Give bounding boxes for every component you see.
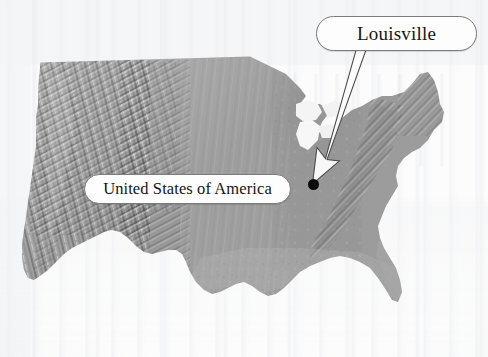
map-figure: Louisville United States of America	[0, 0, 488, 357]
corner-vignette	[0, 0, 488, 357]
